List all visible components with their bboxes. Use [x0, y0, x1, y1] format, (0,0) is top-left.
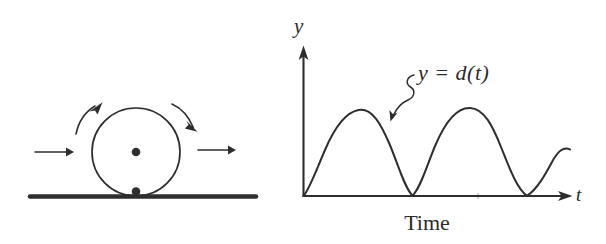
left-motion-arrow [35, 148, 74, 157]
figure-root: y t y = d(t) Time [0, 0, 606, 244]
figure-canvas: y t y = d(t) Time [0, 0, 606, 244]
height-function-chart: y t y = d(t) Time [292, 14, 582, 235]
curve-callout-leader [389, 75, 414, 122]
y-axis-label: y [292, 14, 304, 38]
rolling-wheel-diagram [30, 102, 256, 196]
right-motion-arrow [198, 146, 236, 155]
wheel-center-dot [132, 148, 141, 157]
x-axis-caption: Time [404, 210, 450, 235]
t-axis-label: t [576, 184, 582, 205]
wheel-rim-point-dot [132, 187, 141, 196]
rotation-arrow-right-icon [172, 104, 198, 132]
cycloid-curve [304, 108, 571, 196]
curve-equation-label: y = d(t) [416, 60, 489, 85]
y-axis [299, 46, 309, 197]
